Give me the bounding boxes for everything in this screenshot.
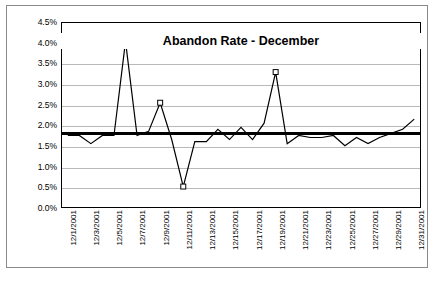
data-point-marker bbox=[181, 184, 186, 189]
y-axis-tick-label: 2.5% bbox=[13, 100, 57, 109]
x-axis-tick-label: 12/29/2001 bbox=[395, 210, 403, 250]
x-axis-tick-label: 12/9/2001 bbox=[163, 210, 171, 246]
y-axis-labels: 0.0%0.5%1.0%1.5%2.0%2.5%3.0%3.5%4.0%4.5% bbox=[11, 22, 57, 208]
x-axis-tick-label: 12/15/2001 bbox=[232, 210, 240, 250]
data-point-marker bbox=[158, 100, 163, 105]
x-axis-tick-label: 12/21/2001 bbox=[302, 210, 310, 250]
chart-root: 0.0%0.5%1.0%1.5%2.0%2.5%3.0%3.5%4.0%4.5%… bbox=[0, 0, 435, 282]
y-axis-tick-label: 4.5% bbox=[13, 18, 57, 27]
plot-area bbox=[61, 22, 421, 208]
y-axis-tick-label: 2.0% bbox=[13, 121, 57, 130]
y-axis-tick-label: 1.5% bbox=[13, 142, 57, 151]
y-axis-tick-label: 1.0% bbox=[13, 162, 57, 171]
x-axis-tick-label: 12/25/2001 bbox=[349, 210, 357, 250]
chart-title-text: Abandon Rate - December bbox=[155, 34, 327, 48]
x-axis-labels: 12/1/200112/3/200112/5/200112/7/200112/9… bbox=[61, 210, 421, 262]
x-axis-tick-label: 12/31/2001 bbox=[418, 210, 426, 250]
x-axis-tick-label: 12/11/2001 bbox=[186, 210, 194, 249]
x-axis-tick-label: 12/27/2001 bbox=[372, 210, 380, 250]
x-axis-tick-label: 12/19/2001 bbox=[279, 210, 287, 250]
x-axis-tick-label: 12/3/2001 bbox=[93, 210, 101, 246]
x-axis-tick-label: 12/13/2001 bbox=[209, 210, 217, 250]
x-axis-tick-label: 12/7/2001 bbox=[139, 210, 147, 246]
chart-frame: 0.0%0.5%1.0%1.5%2.0%2.5%3.0%3.5%4.0%4.5%… bbox=[6, 5, 428, 268]
x-axis-tick-label: 12/1/2001 bbox=[70, 210, 78, 246]
y-axis-tick-label: 3.0% bbox=[13, 80, 57, 89]
y-axis-tick-label: 3.5% bbox=[13, 59, 57, 68]
data-point-marker bbox=[273, 70, 278, 75]
x-axis-tick-label: 12/17/2001 bbox=[256, 210, 264, 250]
data-line-abandon-rate bbox=[68, 41, 414, 186]
series-lines bbox=[62, 23, 420, 207]
y-axis-tick-label: 4.0% bbox=[13, 38, 57, 47]
chart-title: Abandon Rate - December bbox=[61, 33, 421, 49]
x-axis-tick-label: 12/23/2001 bbox=[325, 210, 333, 250]
y-axis-tick-label: 0.0% bbox=[13, 204, 57, 213]
x-axis-tick-label: 12/5/2001 bbox=[116, 210, 124, 246]
y-axis-tick-label: 0.5% bbox=[13, 183, 57, 192]
